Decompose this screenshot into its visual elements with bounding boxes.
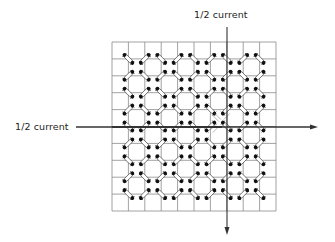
arrow-down-icon [225,227,230,235]
horizontal-wire-label: 1/2 current [15,121,69,132]
vertical-wire-label: 1/2 current [194,9,248,20]
arrow-right-icon [310,125,318,130]
